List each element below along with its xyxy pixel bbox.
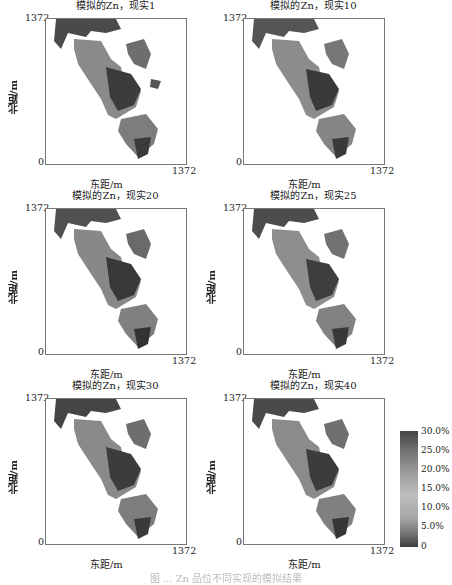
x-tick-max: 1372 <box>370 355 394 366</box>
figure-caption: 图 ... Zn 品位不同实现的模拟结果 <box>0 570 452 585</box>
y-tick-zero: 0 <box>236 346 242 357</box>
x-axis-label: 东距/m <box>288 366 321 381</box>
panel-title: 模拟的Zn，现实20 <box>45 190 186 202</box>
simulation-map <box>243 18 385 165</box>
colorbar-tick: 25.0% <box>421 445 450 455</box>
x-tick-max: 1372 <box>172 545 196 556</box>
x-axis-label: 东距/m <box>90 556 123 571</box>
ore-body-shape <box>46 19 186 164</box>
ore-body-shape <box>244 209 384 354</box>
colorbar-tick: 10.0% <box>421 502 450 512</box>
y-axis-label: 北距/m <box>6 270 21 304</box>
simulation-map <box>45 208 187 355</box>
x-axis-label: 东距/m <box>90 176 123 191</box>
ore-body-shape <box>46 209 186 354</box>
simulation-map <box>45 398 187 545</box>
ore-body-shape <box>244 399 384 544</box>
y-tick-zero: 0 <box>38 156 44 167</box>
panel-1: 模拟的Zn，现实1 1372 0 1372 东距/m 北距/m <box>0 0 196 185</box>
x-tick-max: 1372 <box>370 165 394 176</box>
x-tick-max: 1372 <box>370 545 394 556</box>
panel-title: 模拟的Zn，现实30 <box>45 380 186 392</box>
ore-body-shape <box>244 19 384 164</box>
y-tick-zero: 0 <box>38 536 44 547</box>
y-tick-zero: 0 <box>38 346 44 357</box>
y-axis-label: 北距/m <box>6 80 21 114</box>
x-tick-max: 1372 <box>172 165 196 176</box>
y-tick-zero: 0 <box>236 536 242 547</box>
panel-4: 模拟的Zn，现实25 1372 0 1372 东距/m 北距/m <box>198 190 394 375</box>
x-tick-max: 1372 <box>172 355 196 366</box>
y-axis-label: 北距/m <box>204 460 219 494</box>
colorbar <box>400 431 418 547</box>
colorbar-tick: 30.0% <box>421 426 450 436</box>
y-tick-zero: 0 <box>236 156 242 167</box>
panel-2: 模拟的Zn，现实10 1372 0 1372 东距/m <box>198 0 394 185</box>
panel-3: 模拟的Zn，现实20 1372 0 1372 东距/m 北距/m <box>0 190 196 375</box>
y-axis-label: 北距/m <box>204 270 219 304</box>
simulation-map <box>45 18 187 165</box>
x-axis-label: 东距/m <box>288 176 321 191</box>
panel-title: 模拟的Zn，现实40 <box>243 380 384 392</box>
panel-5: 模拟的Zn，现实30 1372 0 1372 东距/m 北距/m <box>0 380 196 565</box>
simulation-map <box>243 398 385 545</box>
colorbar-tick: 5.0% <box>421 521 444 531</box>
colorbar-tick: 0 <box>421 541 427 551</box>
colorbar-tick: 20.0% <box>421 464 450 474</box>
colorbar-tick: 15.0% <box>421 483 450 493</box>
ore-body-shape <box>46 399 186 544</box>
y-axis-label: 北距/m <box>6 460 21 494</box>
panel-title: 模拟的Zn，现实1 <box>45 0 186 12</box>
panel-title: 模拟的Zn，现实25 <box>243 190 384 202</box>
x-axis-label: 东距/m <box>288 556 321 571</box>
panel-title: 模拟的Zn，现实10 <box>243 0 384 12</box>
x-axis-label: 东距/m <box>90 366 123 381</box>
panel-6: 模拟的Zn，现实40 1372 0 1372 东距/m 北距/m <box>198 380 394 565</box>
simulation-map <box>243 208 385 355</box>
